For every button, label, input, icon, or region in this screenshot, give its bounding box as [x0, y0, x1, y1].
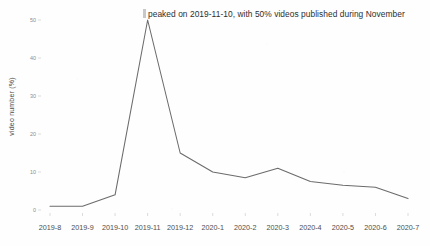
- x-tick-label: 2020-6: [364, 223, 386, 232]
- y-tick-label: 10: [30, 169, 36, 175]
- x-tick-label: 2019-10: [102, 223, 128, 232]
- y-axis-ticks: 01020304050: [30, 17, 41, 213]
- y-tick-label: 30: [30, 93, 36, 99]
- x-tick-label: 2020-7: [397, 223, 419, 232]
- peak-annotation-label: peaked on 2019-11-10, with 50% videos pu…: [148, 9, 405, 19]
- x-axis-ticks: 2019-82019-92019-102019-112019-122020-12…: [39, 213, 419, 232]
- x-tick-label: 2019-11: [135, 223, 161, 232]
- y-tick-label: 40: [30, 55, 36, 61]
- x-tick-label: 2020-4: [299, 223, 321, 232]
- line-chart: video number (%) 01020304050 2019-82019-…: [0, 0, 430, 246]
- x-tick-label: 2019-12: [167, 223, 193, 232]
- plot-area: 01020304050 2019-82019-92019-102019-1120…: [0, 0, 430, 246]
- x-tick-label: 2019-9: [71, 223, 93, 232]
- series-line-video-number: [50, 20, 408, 206]
- y-tick-label: 50: [30, 17, 36, 23]
- x-tick-label: 2020-5: [332, 223, 354, 232]
- x-tick-label: 2020-2: [234, 223, 256, 232]
- x-tick-label: 2020-3: [267, 223, 289, 232]
- y-tick-label: 0: [33, 207, 36, 213]
- annotation-marker-icon: [143, 9, 146, 18]
- y-tick-label: 20: [30, 131, 36, 137]
- x-tick-label: 2019-8: [39, 223, 61, 232]
- x-tick-label: 2020-1: [202, 223, 224, 232]
